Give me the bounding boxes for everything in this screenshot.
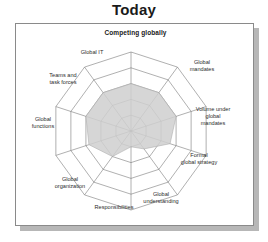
- chart-panel: Competing globally Global ITGlobalmandat…: [15, 23, 254, 226]
- radar-axis-label: Global: [35, 116, 51, 122]
- radar-axis-label: Teams and: [49, 72, 76, 78]
- radar-axis-label: global: [206, 113, 221, 119]
- radar-axis-label: global strategy: [181, 159, 218, 165]
- radar-chart: Global ITGlobalmandatesTeams andtask for…: [16, 24, 255, 227]
- radar-axis-label: understanding: [143, 198, 178, 204]
- radar-axis-label: mandates: [201, 120, 226, 126]
- radar-series-polygon: [86, 84, 176, 157]
- slide-root: Today Competing globally Global ITGlobal…: [0, 0, 268, 242]
- radar-axis-label: mandates: [190, 66, 215, 72]
- radar-axis-label: Volume under: [196, 106, 231, 112]
- radar-axis-label: Formal: [190, 152, 207, 158]
- radar-axis-label: functions: [32, 123, 55, 129]
- radar-axis-label: Global: [194, 59, 210, 65]
- radar-axis-label: task forces: [49, 79, 76, 85]
- radar-axis-label: organization: [55, 183, 85, 189]
- radar-axis-label: Global: [62, 176, 78, 182]
- radar-axis-label: Responsibilities: [95, 204, 134, 210]
- radar-axis-label: Global: [153, 191, 169, 197]
- radar-series-group: [86, 84, 176, 157]
- radar-axis-label: Global IT: [81, 49, 104, 55]
- slide-title: Today: [0, 1, 268, 19]
